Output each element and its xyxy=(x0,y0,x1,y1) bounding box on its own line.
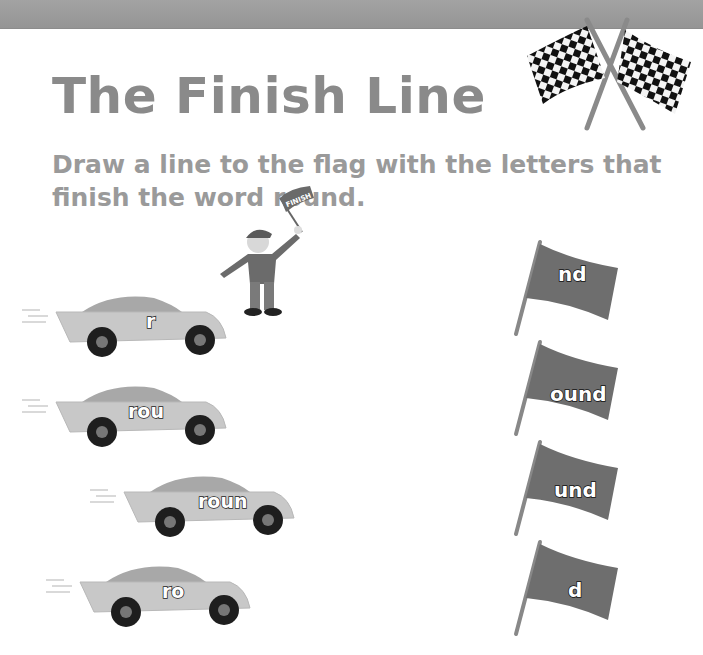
car-2[interactable]: rou xyxy=(22,382,232,454)
car-1[interactable]: r xyxy=(22,292,232,364)
race-car-icon xyxy=(22,382,232,450)
car-label: ro xyxy=(162,580,184,602)
race-car-icon xyxy=(22,292,232,360)
flag-label: nd xyxy=(558,262,587,286)
checkered-flags-icon xyxy=(505,16,703,140)
pennant-flag-icon xyxy=(512,538,622,638)
flag-4[interactable]: d xyxy=(512,538,622,638)
race-car-icon xyxy=(90,472,300,540)
flag-2[interactable]: ound xyxy=(512,338,622,438)
car-3[interactable]: roun xyxy=(90,472,300,544)
pennant-flag-icon xyxy=(512,238,622,338)
car-label: r xyxy=(146,310,155,332)
flag-1[interactable]: nd xyxy=(512,238,622,338)
car-4[interactable]: ro xyxy=(46,562,256,634)
flag-label: d xyxy=(568,578,582,602)
flag-label: und xyxy=(554,478,597,502)
car-label: roun xyxy=(198,490,247,512)
car-label: rou xyxy=(128,400,164,422)
flag-3[interactable]: und xyxy=(512,438,622,538)
instructions: Draw a line to the flag with the letters… xyxy=(52,148,702,214)
page-title: The Finish Line xyxy=(52,66,486,126)
race-car-icon xyxy=(46,562,256,630)
flag-label: ound xyxy=(550,382,607,406)
